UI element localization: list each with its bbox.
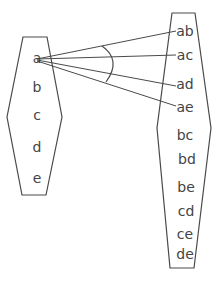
connection-a-ab (37, 31, 176, 59)
right-item-bc: bc (177, 127, 194, 143)
left-item-d: d (33, 139, 42, 155)
left-item-b: b (33, 79, 42, 95)
right-item-ab: ab (176, 23, 194, 39)
right-item-be: be (177, 179, 195, 195)
angle-arc (102, 46, 113, 82)
left-item-e: e (33, 170, 42, 186)
right-item-ae: ae (176, 99, 193, 115)
right-item-de: de (176, 246, 194, 262)
connection-a-ae (37, 61, 176, 106)
left-item-a: a (33, 50, 42, 66)
right-item-ac: ac (177, 47, 193, 63)
right-item-cd: cd (178, 203, 195, 219)
connection-a-ac (37, 55, 176, 59)
right-item-bd: bd (178, 151, 196, 167)
right-item-ce: ce (177, 226, 193, 242)
left-item-c: c (33, 107, 41, 123)
diagram-canvas: a b c d e ab ac ad ae bc bd be cd ce de (0, 0, 212, 290)
right-item-ad: ad (176, 76, 193, 92)
